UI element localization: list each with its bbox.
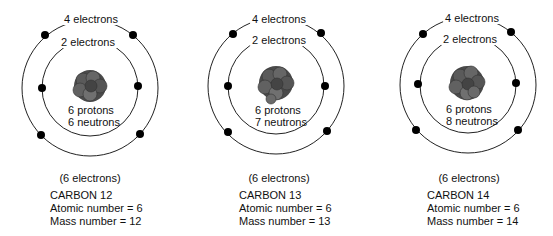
neutrons-label: 8 neutrons — [444, 115, 500, 127]
outer-shell-label: 4 electrons — [443, 12, 501, 24]
nucleus-icon — [449, 66, 485, 100]
total-electrons-label: (6 electrons) — [57, 172, 122, 184]
mass-number: Mass number = 12 — [50, 215, 143, 228]
total-electrons-label: (6 electrons) — [246, 172, 311, 184]
inner-shell-label: 2 electrons — [441, 33, 499, 45]
mass-number: Mass number = 13 — [239, 215, 332, 228]
nucleus-icon — [73, 70, 107, 102]
atom-carbon-14: 4 electrons 2 electrons 6 protons 8 neut… — [368, 0, 553, 236]
inner-shell-label: 2 electrons — [59, 36, 117, 48]
atom-carbon-12: 4 electrons 2 electrons 6 protons 6 neut… — [0, 0, 185, 236]
mass-number: Mass number = 14 — [427, 215, 520, 228]
protons-label: 6 protons — [66, 104, 116, 116]
outer-shell-label: 4 electrons — [62, 13, 120, 25]
protons-label: 6 protons — [444, 103, 494, 115]
isotope-name: CARBON 12 — [50, 189, 143, 202]
protons-label: 6 protons — [253, 104, 303, 116]
outer-shell-label: 4 electrons — [250, 13, 308, 25]
inner-shell-label: 2 electrons — [250, 34, 308, 46]
isotope-info: CARBON 13 Atomic number = 6 Mass number … — [239, 189, 332, 228]
isotope-name: CARBON 13 — [239, 189, 332, 202]
nucleus-icon — [258, 66, 294, 104]
neutrons-label: 7 neutrons — [253, 116, 309, 128]
atomic-number: Atomic number = 6 — [427, 202, 520, 215]
atomic-number: Atomic number = 6 — [50, 202, 143, 215]
isotope-info: CARBON 12 Atomic number = 6 Mass number … — [50, 189, 143, 228]
neutrons-label: 6 neutrons — [66, 116, 122, 128]
isotope-name: CARBON 14 — [427, 189, 520, 202]
atomic-number: Atomic number = 6 — [239, 202, 332, 215]
isotope-info: CARBON 14 Atomic number = 6 Mass number … — [427, 189, 520, 228]
total-electrons-label: (6 electrons) — [436, 172, 501, 184]
atom-carbon-13: 4 electrons 2 electrons 6 protons 7 neut… — [185, 0, 370, 236]
